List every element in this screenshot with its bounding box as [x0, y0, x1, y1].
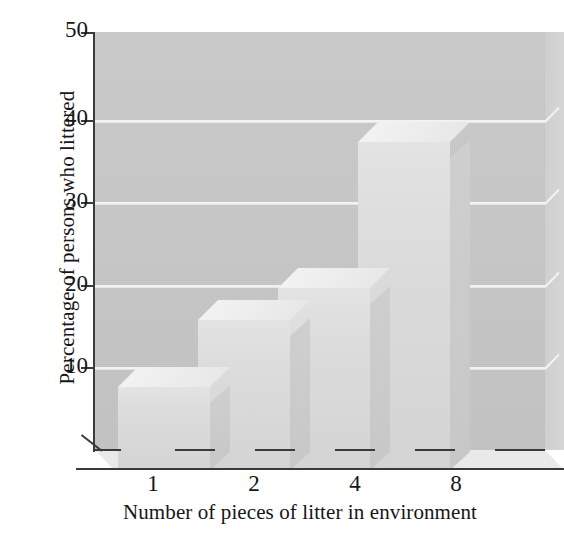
x-tick-label-1: 1: [133, 472, 173, 495]
bar-2: [198, 0, 290, 470]
bar-chart-figure: 50 40 30 20 10 1 2 4 8 Percentage of per…: [0, 0, 564, 535]
x-tickmark-1: [175, 449, 215, 451]
plot-right-wall: [545, 32, 564, 450]
bar-2-side: [290, 318, 310, 470]
x-tick-label-4: 4: [335, 472, 375, 495]
x-tickmark-2: [255, 449, 295, 451]
y-axis-title: Percentage of persons who littered: [55, 28, 80, 448]
bar-8-side: [450, 140, 470, 470]
x-tickmark-3: [335, 449, 375, 451]
bar-4-side: [370, 286, 390, 470]
x-axis-line: [76, 468, 564, 470]
x-tickmark-4: [415, 449, 455, 451]
bar-1: [118, 0, 210, 470]
x-tick-label-2: 2: [234, 472, 274, 495]
x-tickmark-5: [495, 449, 545, 451]
y-axis-line: [93, 32, 95, 452]
x-tickmark-0: [95, 449, 121, 451]
bar-1-front: [118, 387, 210, 470]
x-axis-title: Number of pieces of litter in environmen…: [60, 500, 540, 525]
x-tick-label-8: 8: [436, 472, 476, 495]
